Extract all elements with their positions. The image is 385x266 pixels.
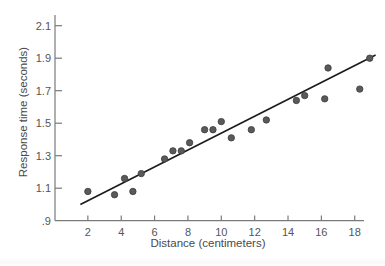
y-tick-label: 1.9 bbox=[36, 52, 51, 64]
x-tick-label: 4 bbox=[118, 226, 124, 238]
y-tick-label: 1.1 bbox=[36, 182, 51, 194]
data-points bbox=[85, 55, 373, 198]
data-point bbox=[170, 148, 176, 154]
y-tick-label: .9 bbox=[42, 215, 51, 227]
data-point bbox=[111, 192, 117, 198]
x-axis-title: Distance (centimeters) bbox=[150, 237, 265, 249]
data-point bbox=[138, 170, 144, 176]
y-tick-label: 1.3 bbox=[36, 150, 51, 162]
y-axis-ticks: .91.11.31.51.71.92.1 bbox=[36, 20, 62, 227]
x-tick-label: 18 bbox=[349, 226, 361, 238]
data-point bbox=[367, 55, 373, 61]
x-axis: 24681012141618 bbox=[55, 216, 364, 239]
page-bleed-artifact bbox=[0, 258, 385, 266]
data-point bbox=[178, 148, 184, 154]
scatter-chart: .91.11.31.51.71.92.1 24681012141618 Dist… bbox=[0, 0, 385, 266]
data-point bbox=[248, 127, 254, 133]
data-point bbox=[130, 188, 136, 194]
data-point bbox=[210, 127, 216, 133]
data-point bbox=[218, 118, 224, 124]
data-point bbox=[293, 97, 299, 103]
data-point bbox=[228, 135, 234, 141]
data-point bbox=[161, 156, 167, 162]
x-tick-label: 16 bbox=[315, 226, 327, 238]
y-axis-title: Response time (seconds) bbox=[17, 47, 29, 178]
data-point bbox=[121, 175, 127, 181]
x-tick-label: 2 bbox=[85, 226, 91, 238]
x-tick-label: 14 bbox=[282, 226, 294, 238]
y-axis: .91.11.31.51.71.92.1 bbox=[36, 15, 62, 227]
data-point bbox=[322, 96, 328, 102]
data-point bbox=[85, 188, 91, 194]
data-point bbox=[357, 86, 363, 92]
y-tick-label: 2.1 bbox=[36, 20, 51, 32]
data-point bbox=[325, 65, 331, 71]
y-tick-label: 1.7 bbox=[36, 85, 51, 97]
data-point bbox=[302, 92, 308, 98]
data-point bbox=[263, 117, 269, 123]
y-tick-label: 1.5 bbox=[36, 117, 51, 129]
data-point bbox=[186, 140, 192, 146]
x-axis-ticks: 24681012141618 bbox=[85, 216, 361, 239]
data-point bbox=[201, 127, 207, 133]
